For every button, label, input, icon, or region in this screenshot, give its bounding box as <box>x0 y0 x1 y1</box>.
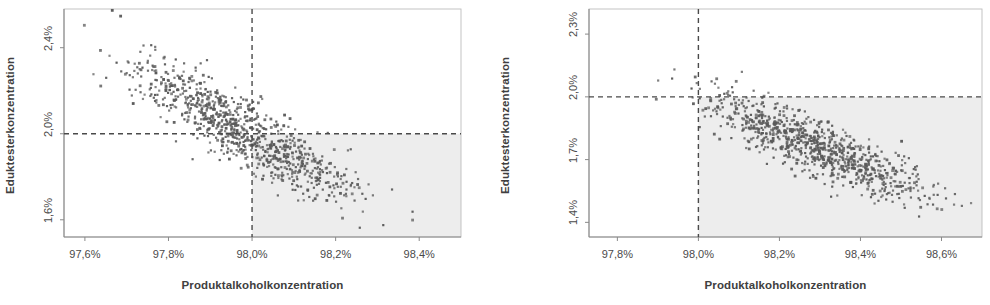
x-tick-label: 98,0% <box>222 248 282 260</box>
y-axis-title-right: Eduktesterkonzentration <box>499 18 511 233</box>
x-tick-label: 98,0% <box>668 248 728 260</box>
x-axis-title-left: Produktalkoholkonzentration <box>64 279 461 291</box>
x-tick-label: 97,8% <box>587 248 647 260</box>
y-tick-label: 1,6% <box>42 198 54 223</box>
x-tick-label: 98,2% <box>306 248 366 260</box>
chart-panel-right: Eduktesterkonzentration Produktalkoholko… <box>495 0 990 305</box>
y-tick-label: 1,4% <box>567 200 579 225</box>
y-axis-title-left: Eduktesterkonzentration <box>4 18 16 233</box>
y-tick-label: 1,7% <box>567 138 579 163</box>
y-tick-label: 2,0% <box>567 75 579 100</box>
scatter-plot-figure: Eduktesterkonzentration Produktalkoholko… <box>0 0 990 305</box>
chart-panel-left: Eduktesterkonzentration Produktalkoholko… <box>0 0 495 305</box>
x-tick-label: 98,6% <box>911 248 971 260</box>
x-axis-title-right: Produktalkoholkonzentration <box>589 279 982 291</box>
x-tick-label: 98,4% <box>389 248 449 260</box>
y-tick-label: 2,4% <box>42 26 54 51</box>
x-tick-label: 98,2% <box>749 248 809 260</box>
x-tick-label: 97,8% <box>138 248 198 260</box>
x-tick-label: 98,4% <box>830 248 890 260</box>
y-tick-label: 2,3% <box>567 12 579 37</box>
y-tick-label: 2,0% <box>42 112 54 137</box>
x-tick-label: 97,6% <box>55 248 115 260</box>
